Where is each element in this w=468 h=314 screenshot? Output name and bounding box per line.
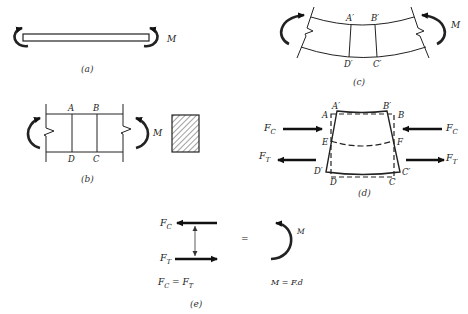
point-a: A	[67, 103, 74, 113]
force-label-fc-left: FC	[263, 122, 277, 136]
point-b-prime: B′	[370, 13, 379, 23]
point-a-prime: A′	[345, 13, 354, 23]
force-label-fc: FC	[159, 217, 173, 231]
point-a-prime: A′	[331, 101, 340, 111]
caption-b: (b)	[81, 174, 94, 184]
moment-label: M	[166, 34, 177, 44]
force-label-ft-right: FT	[445, 152, 459, 166]
point-d: D	[329, 177, 337, 187]
break-line-right	[121, 104, 131, 162]
moment-arrow-left-icon	[281, 15, 304, 44]
cross-section-hatched	[172, 115, 199, 152]
point-d-prime: D′	[343, 59, 353, 69]
panel-c: A′ B′ D′ C′ M (c)	[281, 7, 461, 87]
point-c: C	[93, 154, 100, 164]
point-d: D	[67, 154, 75, 164]
section-line-bc	[375, 25, 377, 57]
force-label-ft: FT	[159, 252, 173, 266]
beam-bending-diagram: M (a) A B D C M (b) A′ B′ D′ C′	[0, 0, 468, 314]
section-line-ad	[349, 25, 351, 57]
panel-d: A′ B′ A B E F D′ C′ D C FC FC FT FT (d)	[258, 101, 459, 198]
moment-label: M	[152, 128, 163, 138]
beam-bottom-curve	[301, 47, 426, 58]
equation-m-equals-fd: M = F.d	[270, 278, 303, 287]
caption-c: (c)	[353, 77, 366, 87]
equation-fc-equals-ft: FC = FT	[157, 277, 194, 290]
beam-straight	[23, 34, 149, 41]
moment-arrow-left-icon	[28, 118, 40, 148]
force-label-fc-right: FC	[445, 122, 459, 136]
caption-e: (e)	[190, 299, 203, 309]
point-b: B	[397, 110, 404, 120]
force-label-ft-left: FT	[258, 150, 272, 164]
point-d-prime: D′	[313, 166, 323, 176]
moment-label: M	[296, 227, 305, 236]
point-c: C	[389, 177, 396, 187]
point-b: B	[92, 103, 99, 113]
beam-top-curve	[311, 17, 414, 25]
moment-arrow-right-icon	[422, 15, 445, 44]
moment-label: M	[450, 20, 461, 30]
point-e: E	[321, 137, 329, 147]
caption-a: (a)	[81, 64, 94, 74]
moment-arrow-right-icon	[136, 118, 148, 148]
point-f: F	[396, 137, 404, 147]
point-b-prime: B′	[382, 101, 391, 111]
point-a: A	[321, 110, 328, 120]
panel-a: M (a)	[14, 28, 177, 74]
panel-b: A B D C M (b)	[28, 103, 199, 184]
break-line-left	[44, 104, 54, 162]
moment-arrow-icon	[271, 223, 291, 259]
neutral-axis-ef	[331, 141, 393, 146]
point-c-prime: C′	[373, 59, 382, 69]
panel-e: FC FT = M FC = FT M = F.d (e)	[157, 217, 305, 309]
caption-d: (d)	[358, 188, 371, 198]
point-c-prime: C′	[402, 167, 411, 177]
equals-sign: =	[241, 234, 249, 244]
